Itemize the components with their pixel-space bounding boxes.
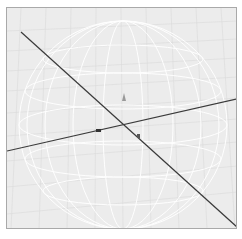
up-arrow-icon: [122, 93, 126, 101]
pivot-marker[interactable]: [96, 129, 101, 132]
viewport-canvas[interactable]: [7, 8, 236, 228]
pivot-marker-2[interactable]: [137, 134, 140, 138]
3d-viewport[interactable]: [6, 7, 237, 229]
